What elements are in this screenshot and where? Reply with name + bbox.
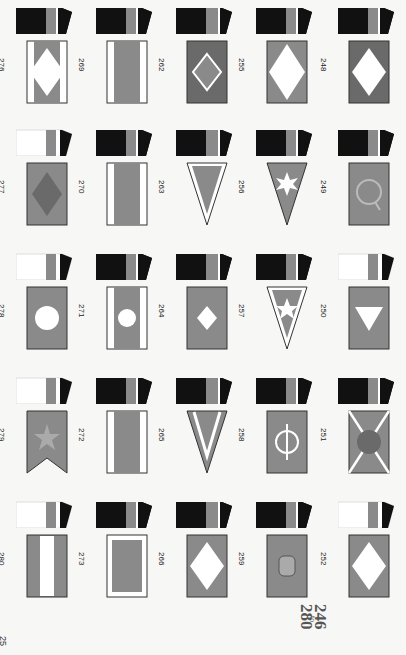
funnel-icon (96, 500, 152, 528)
funnel-icon (256, 128, 312, 156)
funnel-icon (16, 500, 72, 528)
flag-entry: 270 (80, 122, 160, 244)
entry-number: 251 (319, 428, 328, 448)
entry-number: 266 (157, 552, 166, 572)
flag-entry: 250 (322, 246, 402, 368)
entry-number: 277 (0, 180, 6, 200)
flag-entry: 252 (322, 494, 402, 616)
entry-number: 270 (77, 180, 86, 200)
range-end: 280 (296, 604, 316, 630)
house-flag-icon (186, 40, 228, 104)
funnel-icon (16, 252, 72, 280)
funnel-icon (176, 500, 232, 528)
flag-entry: 276 (0, 0, 80, 122)
house-flag-icon (106, 286, 148, 350)
entry-number: 259 (237, 552, 246, 572)
house-flag-icon (186, 410, 228, 474)
house-flag-icon (266, 40, 308, 104)
flag-entry: 263 (160, 122, 240, 244)
house-flag-icon (266, 534, 308, 598)
funnel-icon (256, 500, 312, 528)
house-flag-icon (26, 40, 68, 104)
flag-entry: 258 (240, 370, 320, 492)
funnel-icon (256, 376, 312, 404)
entry-number: 257 (237, 304, 246, 324)
flag-entry: 262 (160, 0, 240, 122)
flag-entry: 272 (80, 370, 160, 492)
house-flag-icon (106, 162, 148, 226)
flag-entry: 248 (322, 0, 402, 122)
flag-entry: 259 (240, 494, 320, 616)
funnel-icon (338, 376, 394, 404)
entry-number: 279 (0, 428, 6, 448)
house-flag-icon (348, 162, 390, 226)
funnel-icon (256, 6, 312, 34)
funnel-icon (16, 6, 72, 34)
house-flag-icon (186, 162, 228, 226)
house-flag-icon (106, 410, 148, 474)
house-flag-icon (26, 286, 68, 350)
house-flag-icon (266, 286, 308, 350)
entry-number: 255 (237, 58, 246, 78)
flag-entry: 255 (240, 0, 320, 122)
flag-entry: 249 (322, 122, 402, 244)
funnel-icon (16, 376, 72, 404)
house-flag-icon (186, 286, 228, 350)
funnel-icon (96, 252, 152, 280)
entry-number: 248 (319, 58, 328, 78)
flag-entry: 277 (0, 122, 80, 244)
house-flag-icon (106, 534, 148, 598)
house-flag-icon (266, 410, 308, 474)
funnel-icon (338, 500, 394, 528)
flag-entry: 271 (80, 246, 160, 368)
funnel-icon (96, 376, 152, 404)
funnel-icon (96, 128, 152, 156)
entry-number: 269 (77, 58, 86, 78)
flag-entry: 280 (0, 494, 80, 616)
entry-number: 252 (319, 552, 328, 572)
entry-number: 265 (157, 428, 166, 448)
entry-number: 278 (0, 304, 6, 324)
house-flag-icon (186, 534, 228, 598)
house-flag-icon (348, 410, 390, 474)
house-flag-icon (348, 40, 390, 104)
entry-number: 276 (0, 58, 6, 78)
house-flag-icon (26, 410, 68, 474)
entry-number: 264 (157, 304, 166, 324)
entry-number: 256 (237, 180, 246, 200)
flag-entry: 269 (80, 0, 160, 122)
house-flag-icon (348, 286, 390, 350)
funnel-icon (176, 376, 232, 404)
range-label: 246 to 280 (300, 604, 340, 654)
entry-number: 250 (319, 304, 328, 324)
funnel-icon (256, 252, 312, 280)
funnel-icon (338, 128, 394, 156)
entry-number: 263 (157, 180, 166, 200)
entry-number: 249 (319, 180, 328, 200)
funnel-icon (16, 128, 72, 156)
flag-entry: 265 (160, 370, 240, 492)
entry-number: 258 (237, 428, 246, 448)
flag-entry: 279 (0, 370, 80, 492)
flag-entry: 257 (240, 246, 320, 368)
funnel-icon (176, 6, 232, 34)
house-flag-icon (106, 40, 148, 104)
entry-number: 273 (77, 552, 86, 572)
funnel-icon (96, 6, 152, 34)
house-flag-icon (348, 534, 390, 598)
funnel-icon (338, 6, 394, 34)
page-number: 25 (0, 636, 8, 646)
flag-entry: 264 (160, 246, 240, 368)
house-flag-icon (26, 534, 68, 598)
flag-entry: 266 (160, 494, 240, 616)
funnel-icon (338, 252, 394, 280)
entry-number: 272 (77, 428, 86, 448)
flag-entry: 273 (80, 494, 160, 616)
flag-entry: 251 (322, 370, 402, 492)
flag-entry: 256 (240, 122, 320, 244)
entry-number: 280 (0, 552, 6, 572)
entry-number: 262 (157, 58, 166, 78)
flag-entry: 278 (0, 246, 80, 368)
house-flag-icon (26, 162, 68, 226)
funnel-icon (176, 252, 232, 280)
